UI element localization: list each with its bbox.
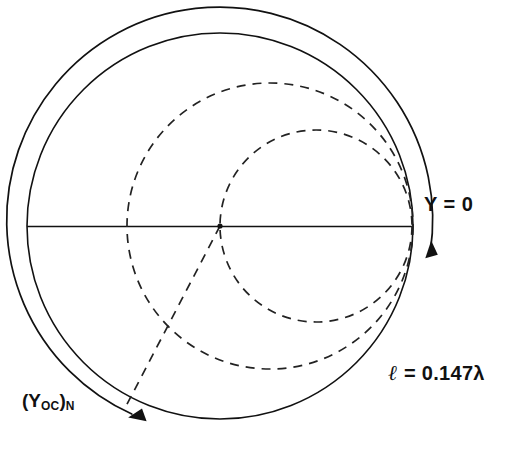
susceptance-dashed-ray <box>124 226 220 410</box>
yoc-prefix: (Y <box>22 390 41 411</box>
wavelength-rotation-arc <box>7 7 433 414</box>
rotation-arc-start-arrowhead <box>128 409 146 422</box>
length-unit-lambda: λ <box>473 362 484 384</box>
chart-center-point <box>217 223 222 228</box>
rotation-arc-end-arrowhead <box>425 241 438 259</box>
yoc-subscript-n: N <box>66 399 75 413</box>
smith-chart-figure: Y = 0 (YOC)N ℓ = 0.147λ <box>0 0 508 465</box>
length-value: 0.147 <box>422 362 474 384</box>
length-equals-sign: = <box>398 362 422 384</box>
smith-chart-canvas <box>0 0 508 465</box>
length-symbol-ell: ℓ <box>388 361 398 385</box>
admittance-zero-label: Y = 0 <box>424 194 473 214</box>
line-length-label: ℓ = 0.147λ <box>388 363 485 384</box>
open-circuit-admittance-label: (YOC)N <box>22 391 75 412</box>
yoc-subscript-oc: OC <box>41 399 59 413</box>
